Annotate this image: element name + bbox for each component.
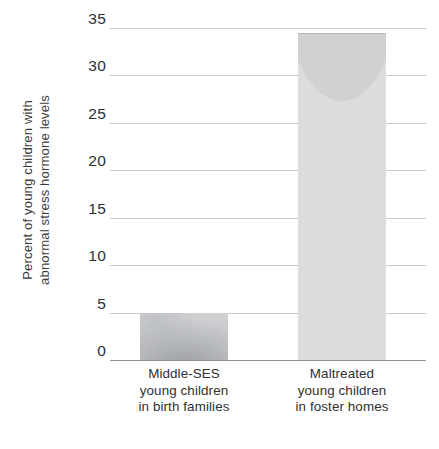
- y-tick-label-10: 10: [72, 247, 106, 265]
- y-axis-title-line-1: Percent of young children with: [20, 100, 35, 280]
- x-category-label-0-line-1: young children: [110, 383, 258, 400]
- y-tick-label-20: 20: [72, 152, 106, 170]
- y-tick-label-15: 15: [72, 200, 106, 218]
- y-tick-label-0: 0: [72, 342, 106, 360]
- y-axis-title-text: Percent of young children with abnormal …: [19, 95, 53, 285]
- bar-chart-figure: Percent of young children with abnormal …: [0, 0, 439, 449]
- x-category-label-0-line-0: Middle-SES: [110, 366, 258, 383]
- bar-0: [140, 313, 228, 360]
- x-category-label-1-line-2: in foster homes: [268, 399, 416, 416]
- x-axis-category-labels: Middle-SESyoung childrenin birth familie…: [110, 366, 426, 440]
- axis-baseline: [110, 360, 426, 361]
- plot-area: [110, 28, 426, 360]
- y-axis-title-line-2: abnormal stress hormone levels: [36, 95, 53, 285]
- y-axis-tick-labels: 05101520253035: [70, 0, 106, 449]
- bar-top-edge: [298, 33, 386, 34]
- y-axis-title: Percent of young children with abnormal …: [0, 0, 72, 380]
- x-category-label-0: Middle-SESyoung childrenin birth familie…: [110, 366, 258, 416]
- x-category-label-1-line-1: young children: [268, 383, 416, 400]
- x-category-label-0-line-2: in birth families: [110, 399, 258, 416]
- y-tick-label-5: 5: [72, 295, 106, 313]
- y-tick-label-35: 35: [72, 10, 106, 28]
- bar-texture: [140, 313, 228, 360]
- bar-1: [298, 33, 386, 360]
- gridline: [110, 28, 426, 29]
- x-category-label-1: Maltreatedyoung childrenin foster homes: [268, 366, 416, 416]
- x-category-label-1-line-0: Maltreated: [268, 366, 416, 383]
- y-tick-label-25: 25: [72, 105, 106, 123]
- y-tick-label-30: 30: [72, 57, 106, 75]
